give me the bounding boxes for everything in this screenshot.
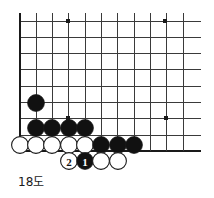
go-stone-black[interactable]	[77, 120, 94, 137]
go-board-figure: 21 18도	[0, 0, 214, 198]
go-stone-black[interactable]	[61, 120, 78, 137]
stone-disc	[12, 137, 29, 154]
stone-disc	[110, 137, 127, 154]
stone-disc	[93, 153, 110, 170]
stone-disc	[61, 120, 78, 137]
go-stone-white[interactable]	[110, 153, 127, 170]
figure-caption: 18도	[18, 172, 44, 189]
move-number-label: 2	[66, 156, 72, 168]
go-stone-white[interactable]	[61, 137, 78, 154]
stone-disc	[28, 120, 45, 137]
go-stone-white[interactable]: 2	[61, 153, 78, 170]
stone-disc	[44, 137, 61, 154]
stone-disc	[77, 137, 94, 154]
go-board: 21	[0, 0, 214, 198]
go-stone-white[interactable]	[77, 137, 94, 154]
stone-disc	[61, 137, 78, 154]
star-point-icon	[163, 19, 167, 23]
stone-disc	[44, 120, 61, 137]
stone-disc	[93, 137, 110, 154]
stone-disc	[28, 95, 45, 112]
stone-disc	[110, 153, 127, 170]
go-stone-black[interactable]	[28, 120, 45, 137]
stone-disc	[77, 120, 94, 137]
star-point-icon	[164, 116, 168, 120]
star-point-icon	[66, 19, 70, 23]
stone-disc	[28, 137, 45, 154]
go-stone-white[interactable]	[12, 137, 29, 154]
go-stone-black[interactable]	[44, 120, 61, 137]
go-stone-black[interactable]	[93, 137, 110, 154]
stone-disc	[126, 137, 143, 154]
go-stone-white[interactable]	[44, 137, 61, 154]
go-stone-white[interactable]	[28, 137, 45, 154]
move-number-label: 1	[82, 156, 88, 168]
go-stone-black[interactable]	[28, 95, 45, 112]
go-stone-black[interactable]	[126, 137, 143, 154]
go-stone-black[interactable]	[110, 137, 127, 154]
go-stone-black[interactable]: 1	[77, 153, 94, 170]
stones-layer: 21	[12, 95, 143, 170]
go-stone-white[interactable]	[93, 153, 110, 170]
